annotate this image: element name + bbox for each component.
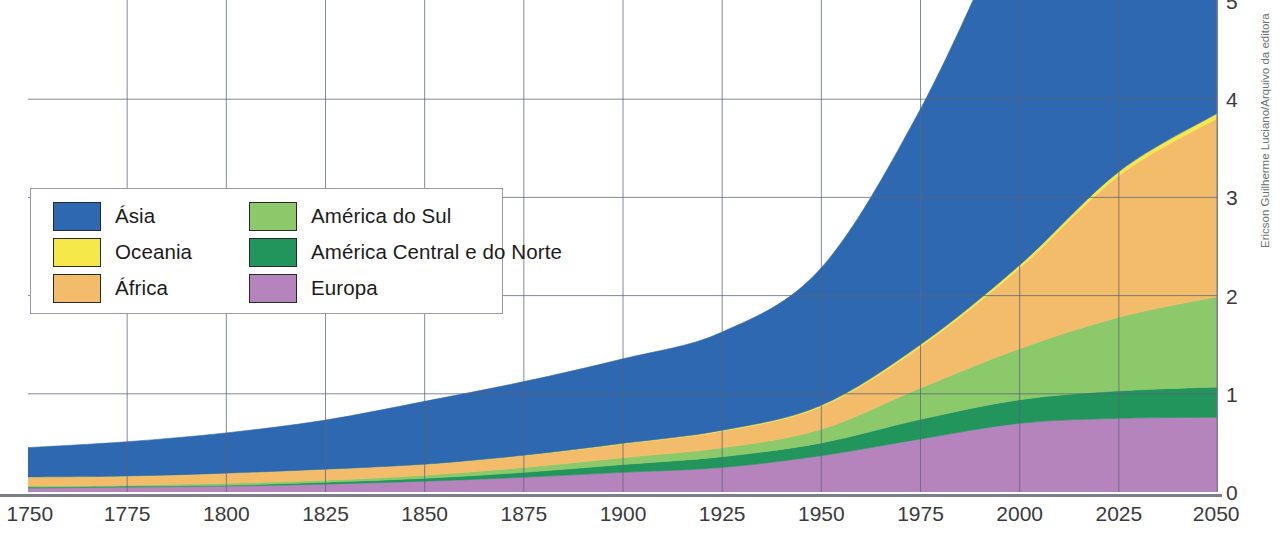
image-credit: Ericson Guilherme Luciano/Arquivo da edi… [1259,0,1271,248]
legend-item-label: América Central e do Norte [311,240,562,264]
legend-item-label: África [115,276,168,300]
legend-swatch-icon [249,238,297,267]
legend-item-label: Ásia [115,204,155,228]
legend-swatch-icon [249,202,297,231]
x-axis-tick-1925: 1925 [699,503,746,524]
x-axis-tick-2050: 2050 [1193,503,1240,524]
legend-item-oceania: Oceania [53,234,249,270]
x-axis-line [0,494,1222,497]
legend-item-label: América do Sul [311,204,451,228]
x-axis-tick-1800: 1800 [203,503,250,524]
x-axis-tick-1750: 1750 [7,503,54,524]
legend-item-am-rica-do-sul: América do Sul [249,198,562,234]
x-axis-tick-2000: 2000 [996,503,1043,524]
x-axis-tick-1825: 1825 [302,503,349,524]
x-axis-tick-2025: 2025 [1095,503,1142,524]
legend-item-am-rica-central-e-do-norte: América Central e do Norte [249,234,562,270]
y-axis-tick-3: 3 [1226,187,1238,208]
legend-item-label: Europa [311,276,378,300]
legend-grid: ÁsiaAmérica do SulOceaniaAmérica Central… [53,198,502,306]
y-axis-tick-4: 4 [1226,89,1238,110]
legend-swatch-icon [53,202,101,231]
x-axis-tick-1900: 1900 [600,503,647,524]
chart-legend: ÁsiaAmérica do SulOceaniaAmérica Central… [30,188,503,314]
legend-swatch-icon [53,238,101,267]
legend-swatch-icon [53,274,101,303]
y-axis-tick-0: 0 [1226,482,1238,503]
x-axis-tick-1850: 1850 [401,503,448,524]
x-axis-tick-1950: 1950 [798,503,845,524]
y-axis-tick-1: 1 [1226,384,1238,405]
stacked-area-chart-figure: 543210 175017751800182518501875190019251… [0,0,1286,550]
x-axis-tick-1875: 1875 [500,503,547,524]
legend-item-label: Oceania [115,240,192,264]
legend-swatch-icon [249,274,297,303]
legend-item-sia: Ásia [53,198,249,234]
legend-item-frica: África [53,270,249,306]
y-axis-tick-5: 5 [1226,0,1238,12]
legend-item-europa: Europa [249,270,562,306]
x-axis-tick-1975: 1975 [897,503,944,524]
y-axis-tick-2: 2 [1226,286,1238,307]
x-axis-tick-1775: 1775 [104,503,151,524]
